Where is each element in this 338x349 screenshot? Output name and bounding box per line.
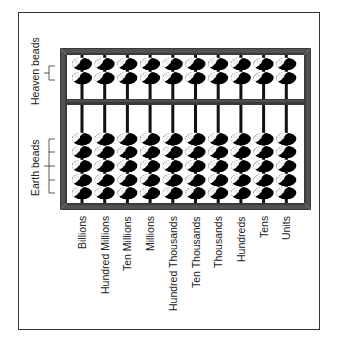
earth-bead[interactable]: [186, 174, 206, 187]
heaven-bead[interactable]: [254, 72, 274, 85]
earth-bead[interactable]: [254, 146, 274, 159]
earth-bead[interactable]: [254, 187, 274, 200]
column-label: Hundred Thousands: [167, 216, 179, 311]
earth-bead[interactable]: [276, 160, 296, 173]
column-label: Hundreds: [235, 216, 247, 262]
earth-beads-label: Earth beads: [29, 139, 41, 196]
earth-bead[interactable]: [140, 174, 160, 187]
column-label: Hundred Millions: [99, 216, 111, 294]
earth-bead[interactable]: [117, 174, 137, 187]
earth-bead[interactable]: [72, 174, 92, 187]
column-label: Thousands: [212, 216, 224, 268]
column-label: Ten Millions: [121, 216, 133, 271]
earth-bead[interactable]: [208, 187, 228, 200]
beam: [67, 99, 304, 105]
earth-bead[interactable]: [208, 146, 228, 159]
earth-bead[interactable]: [276, 187, 296, 200]
earth-bracket: [44, 139, 55, 193]
earth-bead[interactable]: [186, 146, 206, 159]
earth-bead[interactable]: [231, 160, 251, 173]
earth-bead[interactable]: [163, 160, 183, 173]
earth-bead[interactable]: [140, 133, 160, 146]
earth-bead[interactable]: [140, 187, 160, 200]
heaven-bead[interactable]: [117, 72, 137, 85]
heaven-bead[interactable]: [276, 72, 296, 85]
earth-bead[interactable]: [186, 133, 206, 146]
earth-bead[interactable]: [95, 160, 115, 173]
heaven-bead[interactable]: [254, 58, 274, 71]
earth-bead[interactable]: [117, 187, 137, 200]
heaven-bead[interactable]: [231, 58, 251, 71]
earth-bead[interactable]: [231, 174, 251, 187]
earth-bead[interactable]: [163, 133, 183, 146]
earth-bead[interactable]: [72, 146, 92, 159]
earth-bead[interactable]: [163, 187, 183, 200]
heaven-beads-label: Heaven beads: [29, 37, 41, 105]
heaven-bead[interactable]: [276, 58, 296, 71]
earth-bead[interactable]: [231, 146, 251, 159]
column-label: Units: [280, 216, 292, 240]
earth-bead[interactable]: [95, 187, 115, 200]
earth-bead[interactable]: [276, 146, 296, 159]
heaven-bead[interactable]: [140, 72, 160, 85]
earth-bead[interactable]: [163, 174, 183, 187]
earth-bead[interactable]: [254, 160, 274, 173]
earth-bead[interactable]: [117, 133, 137, 146]
earth-bead[interactable]: [231, 187, 251, 200]
earth-bead[interactable]: [254, 133, 274, 146]
earth-bead[interactable]: [140, 146, 160, 159]
heaven-bead[interactable]: [95, 72, 115, 85]
heaven-bead[interactable]: [208, 72, 228, 85]
earth-bead[interactable]: [208, 133, 228, 146]
heaven-bead[interactable]: [186, 72, 206, 85]
earth-bead[interactable]: [140, 160, 160, 173]
earth-bead[interactable]: [276, 133, 296, 146]
heaven-bead[interactable]: [208, 58, 228, 71]
column-label: Ten Thousands: [190, 216, 202, 288]
earth-bead[interactable]: [186, 160, 206, 173]
heaven-bead[interactable]: [140, 58, 160, 71]
earth-bead[interactable]: [95, 174, 115, 187]
earth-bead[interactable]: [72, 187, 92, 200]
earth-bead[interactable]: [117, 160, 137, 173]
heaven-bead[interactable]: [163, 72, 183, 85]
column-label: Millions: [144, 216, 156, 251]
earth-bead[interactable]: [208, 160, 228, 173]
earth-bead[interactable]: [72, 160, 92, 173]
earth-bead[interactable]: [254, 174, 274, 187]
heaven-bead[interactable]: [72, 58, 92, 71]
heaven-bead[interactable]: [186, 58, 206, 71]
earth-bead[interactable]: [208, 174, 228, 187]
earth-bead[interactable]: [276, 174, 296, 187]
earth-bead[interactable]: [95, 146, 115, 159]
earth-bead[interactable]: [231, 133, 251, 146]
earth-bead[interactable]: [163, 146, 183, 159]
heaven-bead[interactable]: [231, 72, 251, 85]
earth-bead[interactable]: [95, 133, 115, 146]
heaven-bead[interactable]: [72, 72, 92, 85]
heaven-bead[interactable]: [117, 58, 137, 71]
heaven-bracket: [44, 66, 55, 80]
earth-bead[interactable]: [117, 146, 137, 159]
column-label: Tens: [258, 216, 270, 238]
earth-bead[interactable]: [186, 187, 206, 200]
abacus-frame: [60, 48, 311, 210]
heaven-bead[interactable]: [163, 58, 183, 71]
heaven-bead[interactable]: [95, 58, 115, 71]
column-label: Billions: [76, 216, 88, 249]
earth-bead[interactable]: [72, 133, 92, 146]
